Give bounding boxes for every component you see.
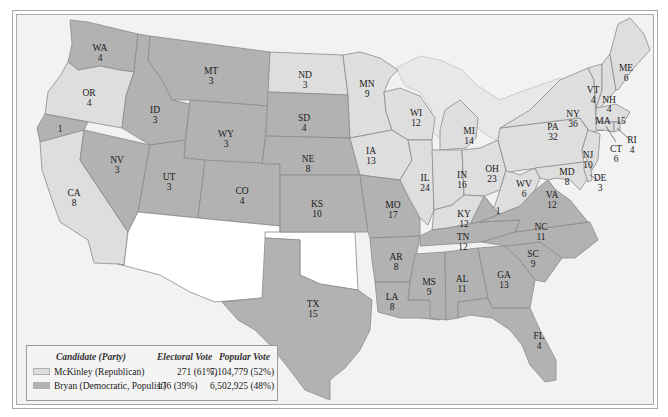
legend-candidate: Bryan (Democratic, Populist) <box>54 380 166 392</box>
label-ca-split: 1 <box>58 124 63 134</box>
legend-header-electoral: Electoral Vote <box>157 351 212 363</box>
label-ar-ev: 8 <box>394 262 399 272</box>
label-ms-ev: 9 <box>427 287 432 297</box>
state-ks <box>280 175 368 232</box>
label-in-abbr: IN <box>457 170 467 180</box>
label-al-abbr: AL <box>456 274 469 284</box>
state-ia <box>350 130 412 180</box>
label-ut-ev: 3 <box>167 182 172 192</box>
label-ut-abbr: UT <box>163 172 176 182</box>
label-ri-abbr: RI <box>627 135 637 145</box>
label-ar-abbr: AR <box>389 252 403 262</box>
label-wy-ev: 3 <box>224 139 229 149</box>
legend-swatch-republican <box>33 368 50 375</box>
label-ca-ev: 8 <box>72 198 77 208</box>
label-md-ev: 8 <box>565 177 570 187</box>
label-sd-abbr: SD <box>298 113 310 123</box>
label-ky-ev: 12 <box>459 219 469 229</box>
label-ga-abbr: GA <box>497 270 511 280</box>
label-ri-ev: 4 <box>630 145 635 155</box>
state-oh <box>462 140 506 196</box>
label-de-ev: 3 <box>598 183 603 193</box>
label-mt-abbr: MT <box>204 66 218 76</box>
label-mn-ev: 9 <box>365 89 370 99</box>
label-vt-abbr: VT <box>587 85 600 95</box>
label-vt-ev: 4 <box>591 95 596 105</box>
label-ma-abbr: MA <box>595 116 610 126</box>
label-nc-abbr: NC <box>534 222 547 232</box>
label-va-ev: 12 <box>547 200 557 210</box>
label-ga-ev: 13 <box>499 280 509 290</box>
legend-swatch-democratic <box>33 382 50 389</box>
label-fl-abbr: FL <box>533 331 544 341</box>
label-wa-ev: 4 <box>98 53 103 63</box>
label-ma-ev: 15 <box>616 116 626 126</box>
label-nh-ev: 4 <box>607 104 612 114</box>
legend-header-candidate: Candidate (Party) <box>56 351 126 363</box>
label-id-abbr: ID <box>150 105 160 115</box>
label-fl-ev: 4 <box>537 341 542 351</box>
state-me <box>610 18 650 90</box>
label-nv-abbr: NV <box>110 155 124 165</box>
label-id-ev: 3 <box>153 115 158 125</box>
territory-az-nm <box>118 212 280 302</box>
label-mo-abbr: MO <box>385 200 400 210</box>
legend: Candidate (Party) Electoral Vote Popular… <box>26 345 278 401</box>
label-nd-ev: 3 <box>303 80 308 90</box>
label-va-abbr: VA <box>546 190 559 200</box>
label-co-ev: 4 <box>240 196 245 206</box>
label-de-abbr: DE <box>594 173 607 183</box>
label-sc-ev: 9 <box>531 259 536 269</box>
label-pa-ev: 32 <box>548 132 558 142</box>
label-ky-abbr: KY <box>457 209 471 219</box>
legend-electoral: 176 (39%) <box>157 380 197 392</box>
label-mt-ev: 3 <box>209 76 214 86</box>
label-nd-abbr: ND <box>298 70 312 80</box>
label-tn-abbr: TN <box>457 232 470 242</box>
label-ne-abbr: NE <box>302 154 315 164</box>
legend-candidate: McKinley (Republican) <box>54 366 145 378</box>
label-tn-ev: 12 <box>458 242 468 252</box>
label-nc-ev: 11 <box>536 232 545 242</box>
label-sc-abbr: SC <box>527 249 539 259</box>
label-ky-split: 1 <box>496 206 501 216</box>
label-tx-abbr: TX <box>307 299 320 309</box>
legend-header-popular: Popular Vote <box>219 351 270 363</box>
label-la-abbr: LA <box>386 292 399 302</box>
label-ny-abbr: NY <box>566 109 580 119</box>
label-wi-abbr: WI <box>410 108 422 118</box>
label-oh-ev: 23 <box>487 174 497 184</box>
label-ca-abbr: CA <box>67 188 80 198</box>
label-in-ev: 16 <box>457 180 467 190</box>
label-sd-ev: 4 <box>302 123 307 133</box>
label-ks-ev: 10 <box>312 209 322 219</box>
label-ia-ev: 13 <box>366 156 376 166</box>
label-co-abbr: CO <box>235 186 248 196</box>
label-nj-ev: 10 <box>583 160 593 170</box>
label-mo-ev: 17 <box>388 210 398 220</box>
label-ct-abbr: CT <box>610 144 622 154</box>
label-wv-ev: 6 <box>522 189 527 199</box>
label-ne-ev: 8 <box>306 164 311 174</box>
label-wi-ev: 12 <box>411 118 421 128</box>
label-il-abbr: IL <box>421 173 430 183</box>
label-al-ev: 11 <box>457 284 466 294</box>
label-wv-abbr: WV <box>516 179 532 189</box>
label-wa-abbr: WA <box>93 43 108 53</box>
label-tx-ev: 15 <box>308 309 318 319</box>
label-ks-abbr: KS <box>311 199 323 209</box>
label-ms-abbr: MS <box>422 277 436 287</box>
label-ny-ev: 36 <box>568 119 578 129</box>
label-wy-abbr: WY <box>218 129 234 139</box>
label-or-abbr: OR <box>82 88 96 98</box>
label-mi-abbr: MI <box>463 126 475 136</box>
label-pa-abbr: PA <box>547 122 558 132</box>
label-la-ev: 8 <box>390 302 395 312</box>
label-ia-abbr: IA <box>366 146 376 156</box>
label-nj-abbr: NJ <box>583 150 594 160</box>
label-me-ev: 6 <box>624 73 629 83</box>
label-me-abbr: ME <box>619 63 633 73</box>
label-oh-abbr: OH <box>485 164 499 174</box>
label-nv-ev: 3 <box>115 165 120 175</box>
label-or-ev: 4 <box>87 98 92 108</box>
